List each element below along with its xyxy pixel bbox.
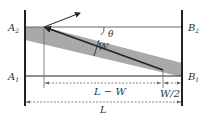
label-theta: θ (108, 29, 114, 39)
label-b2: B2 (187, 22, 199, 34)
label-w: W (98, 41, 109, 52)
slab-geometry-diagram: A2 B2 A1 B1 θ W L − W W/2 L (0, 0, 206, 124)
normal-arrow (44, 13, 80, 27)
label-l: L (99, 104, 107, 115)
label-l-minus-w: L − W (93, 86, 126, 97)
theta-arc (101, 27, 104, 35)
label-b1: B1 (187, 71, 199, 83)
label-w-half: W/2 (160, 88, 180, 99)
label-a1: A1 (7, 71, 19, 83)
label-a2: A2 (7, 22, 19, 34)
